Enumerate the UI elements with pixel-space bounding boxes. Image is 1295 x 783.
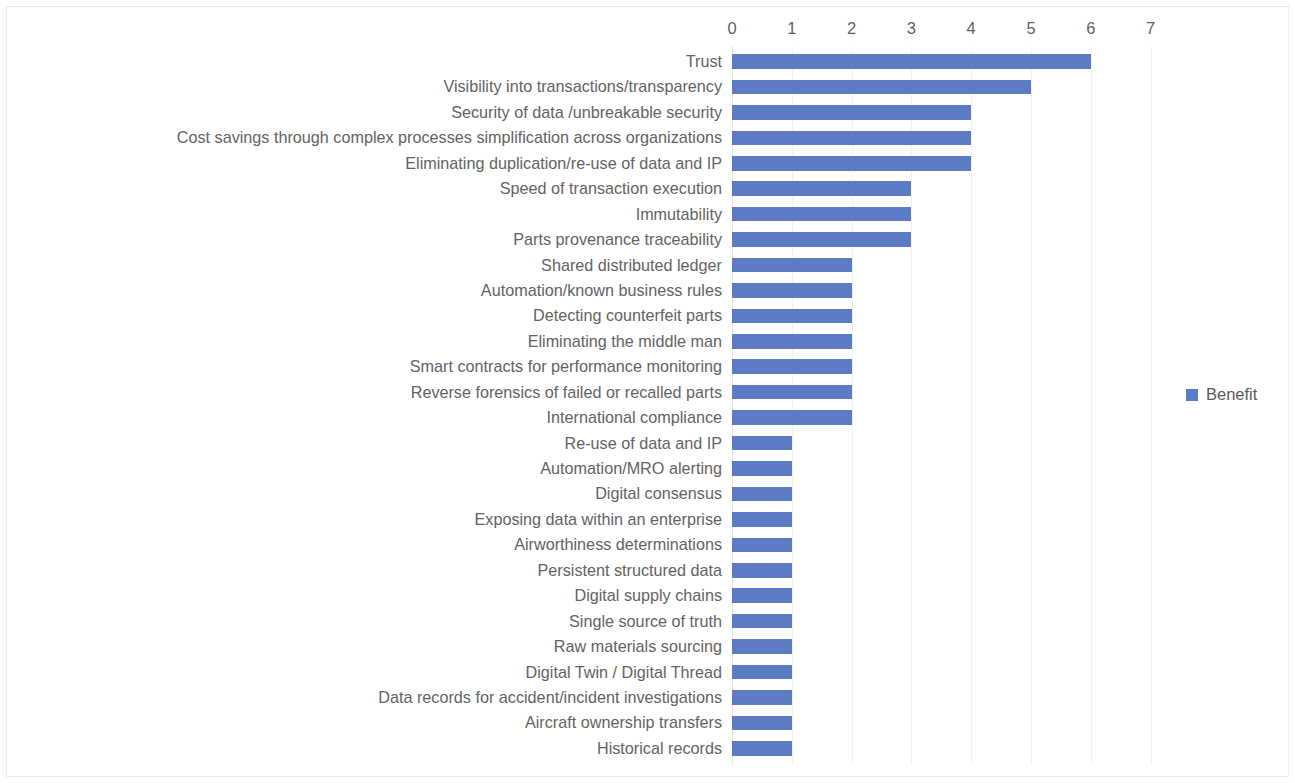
- x-tick-label-3: 3: [891, 18, 931, 38]
- bar-category-label: Cost savings through complex processes s…: [177, 125, 722, 150]
- bar-row: Parts provenance traceability: [0, 227, 1295, 252]
- bar-benefit[interactable]: [732, 563, 792, 578]
- bar-row: Eliminating duplication/re-use of data a…: [0, 151, 1295, 176]
- bar-row: Persistent structured data: [0, 558, 1295, 583]
- bar-benefit[interactable]: [732, 309, 852, 324]
- bar-row: Historical records: [0, 736, 1295, 761]
- bar-category-label: Digital Twin / Digital Thread: [526, 660, 722, 685]
- bar-category-label: Automation/known business rules: [481, 278, 722, 303]
- bar-row: Airworthiness determinations: [0, 532, 1295, 557]
- bar-category-label: Historical records: [597, 736, 722, 761]
- bar-benefit[interactable]: [732, 461, 792, 476]
- x-tick-label-5: 5: [1011, 18, 1051, 38]
- bar-row: Detecting counterfeit parts: [0, 303, 1295, 328]
- legend-label-benefit: Benefit: [1206, 385, 1257, 404]
- bar-row: Shared distributed ledger: [0, 253, 1295, 278]
- bar-category-label: Automation/MRO alerting: [540, 456, 722, 481]
- bar-category-label: Eliminating duplication/re-use of data a…: [405, 151, 722, 176]
- bar-category-label: Airworthiness determinations: [514, 532, 722, 557]
- bar-row: Reverse forensics of failed or recalled …: [0, 380, 1295, 405]
- bar-benefit[interactable]: [732, 665, 792, 680]
- bar-benefit[interactable]: [732, 614, 792, 629]
- bar-benefit[interactable]: [732, 232, 911, 247]
- bar-category-label: Aircraft ownership transfers: [525, 710, 722, 735]
- bar-benefit[interactable]: [732, 436, 792, 451]
- x-tick-label-6: 6: [1071, 18, 1111, 38]
- bar-row: Security of data /unbreakable security: [0, 100, 1295, 125]
- bar-category-label: Digital consensus: [595, 481, 722, 506]
- bar-row: Trust: [0, 49, 1295, 74]
- bar-row: Raw materials sourcing: [0, 634, 1295, 659]
- bar-benefit[interactable]: [732, 588, 792, 603]
- bar-row: Eliminating the middle man: [0, 329, 1295, 354]
- bar-row: Automation/known business rules: [0, 278, 1295, 303]
- bar-category-label: Visibility into transactions/transparenc…: [443, 74, 722, 99]
- bar-row: International compliance: [0, 405, 1295, 430]
- bar-row: Aircraft ownership transfers: [0, 710, 1295, 735]
- bar-row: Exposing data within an enterprise: [0, 507, 1295, 532]
- x-axis-tick-labels: 01234567: [0, 18, 1295, 40]
- chart-legend: Benefit: [1186, 385, 1257, 404]
- bar-category-label: Shared distributed ledger: [541, 253, 722, 278]
- bar-category-label: Raw materials sourcing: [554, 634, 722, 659]
- bar-row: Single source of truth: [0, 609, 1295, 634]
- bar-benefit[interactable]: [732, 156, 971, 171]
- legend-swatch-benefit: [1186, 389, 1198, 401]
- bar-benefit[interactable]: [732, 716, 792, 731]
- bar-category-label: Immutability: [636, 202, 722, 227]
- x-tick-label-1: 1: [772, 18, 812, 38]
- bar-category-label: Detecting counterfeit parts: [533, 303, 722, 328]
- bar-row: Immutability: [0, 202, 1295, 227]
- bar-category-label: Re-use of data and IP: [565, 431, 722, 456]
- bar-benefit[interactable]: [732, 258, 852, 273]
- x-tick-label-2: 2: [832, 18, 872, 38]
- bar-benefit[interactable]: [732, 283, 852, 298]
- bar-row: Digital supply chains: [0, 583, 1295, 608]
- bar-category-label: Digital supply chains: [574, 583, 722, 608]
- bar-category-label: Trust: [686, 49, 722, 74]
- bar-category-label: Persistent structured data: [538, 558, 722, 583]
- bar-row: Re-use of data and IP: [0, 431, 1295, 456]
- bar-benefit[interactable]: [732, 80, 1031, 95]
- x-tick-label-4: 4: [951, 18, 991, 38]
- bar-category-label: Exposing data within an enterprise: [475, 507, 722, 532]
- bar-benefit[interactable]: [732, 181, 911, 196]
- bar-row: Visibility into transactions/transparenc…: [0, 74, 1295, 99]
- bar-row: Speed of transaction execution: [0, 176, 1295, 201]
- bar-category-label: Single source of truth: [569, 609, 722, 634]
- x-tick-label-0: 0: [712, 18, 752, 38]
- bar-benefit[interactable]: [732, 207, 911, 222]
- bar-chart: 01234567 TrustVisibility into transactio…: [0, 0, 1295, 783]
- bar-row: Smart contracts for performance monitori…: [0, 354, 1295, 379]
- bar-row: Automation/MRO alerting: [0, 456, 1295, 481]
- bar-benefit[interactable]: [732, 334, 852, 349]
- bar-category-label: Security of data /unbreakable security: [451, 100, 722, 125]
- bar-rows: TrustVisibility into transactions/transp…: [0, 49, 1295, 761]
- bar-benefit[interactable]: [732, 512, 792, 527]
- bar-benefit[interactable]: [732, 131, 971, 146]
- bar-benefit[interactable]: [732, 410, 852, 425]
- x-tick-label-7: 7: [1131, 18, 1171, 38]
- bar-row: Digital consensus: [0, 481, 1295, 506]
- bar-benefit[interactable]: [732, 639, 792, 654]
- bar-benefit[interactable]: [732, 741, 792, 756]
- bar-benefit[interactable]: [732, 538, 792, 553]
- bar-category-label: Parts provenance traceability: [513, 227, 722, 252]
- bar-benefit[interactable]: [732, 105, 971, 120]
- bar-benefit[interactable]: [732, 487, 792, 502]
- chart-root: 01234567 TrustVisibility into transactio…: [0, 0, 1295, 783]
- bar-category-label: Data records for accident/incident inves…: [378, 685, 722, 710]
- bar-benefit[interactable]: [732, 359, 852, 374]
- bar-category-label: International compliance: [547, 405, 722, 430]
- bar-benefit[interactable]: [732, 690, 792, 705]
- bar-row: Digital Twin / Digital Thread: [0, 660, 1295, 685]
- bar-category-label: Reverse forensics of failed or recalled …: [411, 380, 722, 405]
- bar-category-label: Smart contracts for performance monitori…: [410, 354, 722, 379]
- bar-row: Cost savings through complex processes s…: [0, 125, 1295, 150]
- bar-row: Data records for accident/incident inves…: [0, 685, 1295, 710]
- bar-benefit[interactable]: [732, 54, 1091, 69]
- bar-benefit[interactable]: [732, 385, 852, 400]
- bar-category-label: Speed of transaction execution: [500, 176, 722, 201]
- bar-category-label: Eliminating the middle man: [528, 329, 722, 354]
